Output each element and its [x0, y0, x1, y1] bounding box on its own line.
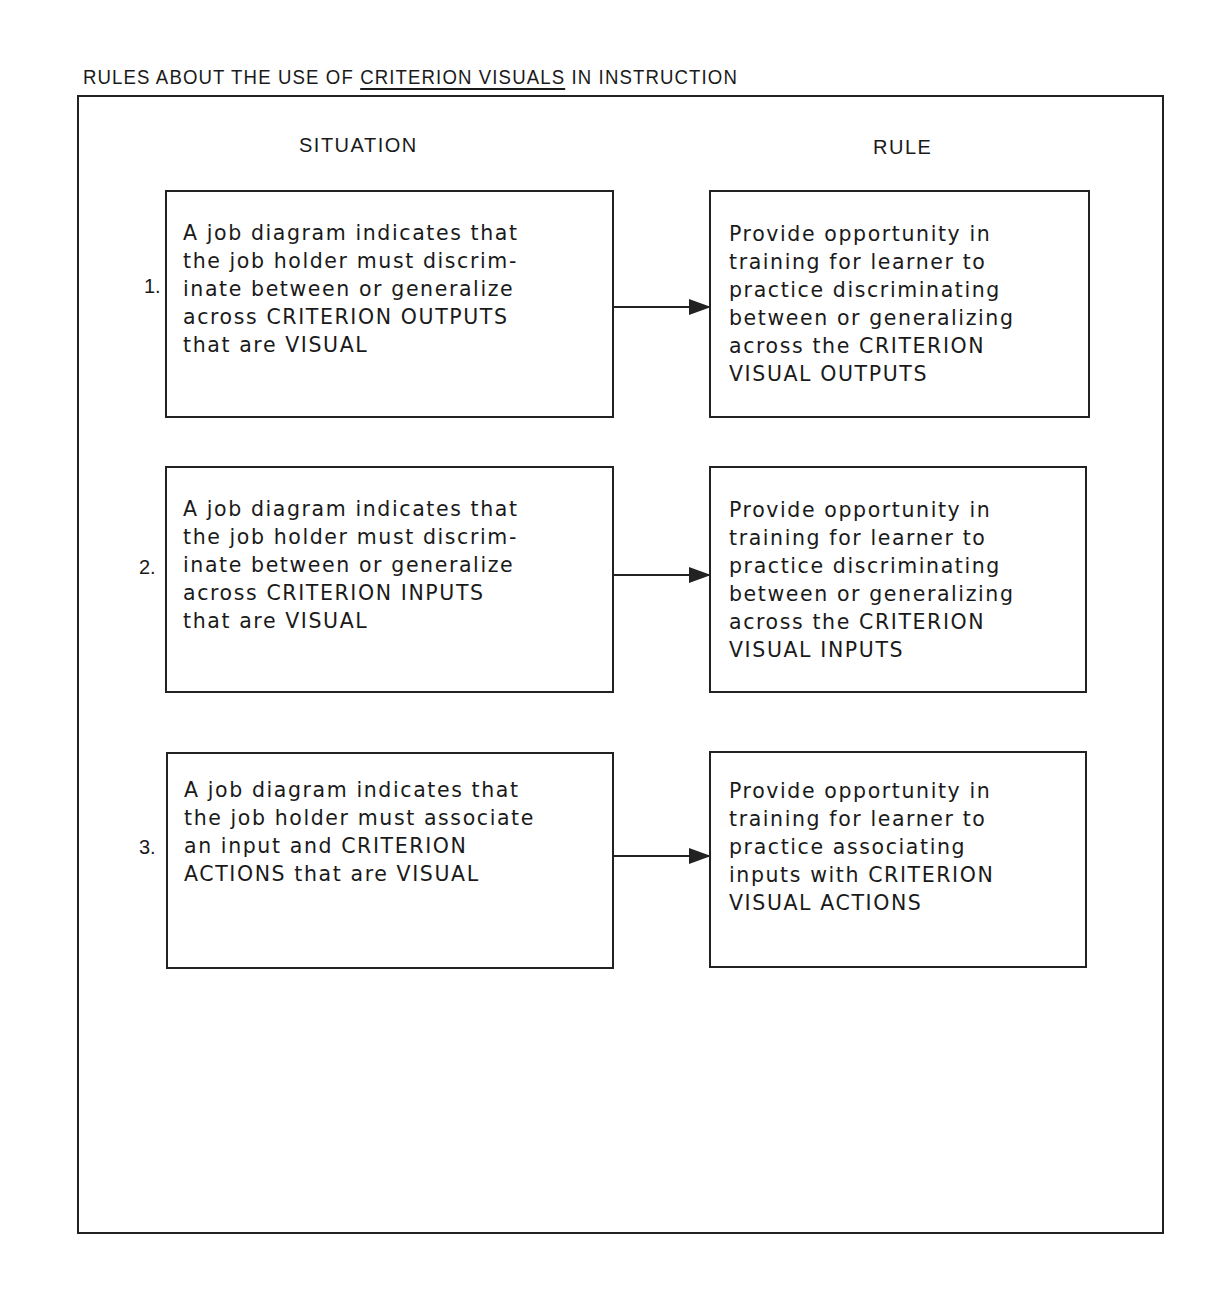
situation-text: A job diagram indicates that the job hol… — [183, 219, 519, 359]
arrow-connector — [613, 855, 709, 857]
situation-text: A job diagram indicates that the job hol… — [183, 495, 519, 635]
arrow-connector — [613, 306, 709, 308]
situation-box: A job diagram indicates that the job hol… — [166, 752, 614, 969]
title-underlined: CRITERION VISUALS — [360, 66, 565, 88]
rule-box: Provide opportunity in training for lear… — [709, 466, 1087, 693]
column-header-situation: SITUATION — [299, 134, 418, 157]
row-number: 2. — [139, 556, 156, 579]
rule-text: Provide opportunity in training for lear… — [729, 496, 1015, 664]
arrowhead-icon — [689, 299, 711, 315]
situation-box: A job diagram indicates that the job hol… — [165, 466, 614, 693]
arrowhead-icon — [689, 848, 711, 864]
column-header-rule: RULE — [873, 136, 932, 159]
title-suffix: IN INSTRUCTION — [565, 66, 738, 88]
arrow-connector — [613, 574, 709, 576]
rule-text: Provide opportunity in training for lear… — [729, 220, 1015, 388]
rule-text: Provide opportunity in training for lear… — [729, 777, 994, 917]
rule-box: Provide opportunity in training for lear… — [709, 190, 1090, 418]
arrowhead-icon — [689, 567, 711, 583]
page-title: RULES ABOUT THE USE OF CRITERION VISUALS… — [83, 66, 738, 89]
row-number: 3. — [139, 836, 156, 859]
rule-box: Provide opportunity in training for lear… — [709, 751, 1087, 968]
situation-box: A job diagram indicates that the job hol… — [165, 190, 614, 418]
title-prefix: RULES ABOUT THE USE OF — [83, 66, 360, 88]
situation-text: A job diagram indicates that the job hol… — [184, 776, 535, 888]
row-number: 1. — [144, 275, 161, 298]
